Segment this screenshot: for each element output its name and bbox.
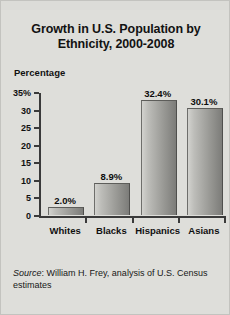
- y-axis-tick-label: 20: [21, 141, 31, 151]
- y-axis-tick: [34, 180, 39, 182]
- bar: [48, 207, 84, 215]
- y-axis-tick-label: 0: [26, 211, 31, 221]
- y-axis-tick-label: 15: [21, 158, 31, 168]
- y-axis-tick-label: 10: [21, 176, 31, 186]
- y-axis-tick: [34, 145, 39, 147]
- y-axis-tick: [34, 215, 39, 217]
- chart-title-line-2: Ethnicity, 2000-2008: [11, 37, 221, 52]
- card-top-strip: [1, 1, 230, 10]
- bar-value-label: 30.1%: [190, 96, 217, 107]
- y-axis-tick-label: 30: [21, 106, 31, 116]
- source-label: Source: [13, 268, 42, 278]
- y-axis-line: [39, 93, 41, 217]
- y-axis-tick: [34, 197, 39, 199]
- x-axis-tick: [132, 218, 134, 223]
- bar: [187, 108, 223, 215]
- bar: [94, 183, 130, 215]
- x-axis-category-label: Asians: [188, 225, 219, 236]
- y-axis-tick: [34, 162, 39, 164]
- y-axis-title: Percentage: [14, 67, 65, 78]
- bar-value-label: 32.4%: [144, 88, 171, 99]
- source-text: : William H. Frey, analysis of U.S. Cens…: [13, 268, 207, 290]
- bar-value-label: 2.0%: [54, 195, 76, 206]
- y-axis-tick-label: 25: [21, 123, 31, 133]
- x-axis-tick: [85, 218, 87, 223]
- x-axis-tick: [178, 218, 180, 223]
- chart-title: Growth in U.S. Population by Ethnicity, …: [11, 22, 221, 52]
- chart-title-line-1: Growth in U.S. Population by: [11, 22, 221, 37]
- chart-card: Growth in U.S. Population by Ethnicity, …: [0, 0, 230, 315]
- source-footnote: Source: William H. Frey, analysis of U.S…: [13, 267, 221, 291]
- x-axis-category-label: Whites: [50, 225, 81, 236]
- y-axis-tick-label: 35%: [13, 88, 31, 98]
- plot-area: 05101520253035% 2.0%8.9%32.4%30.1% White…: [39, 93, 224, 216]
- y-axis-tick: [34, 92, 39, 94]
- x-axis-category-label: Blacks: [96, 225, 127, 236]
- y-axis-tick-label: 5: [26, 193, 31, 203]
- x-axis-category-label: Hispanics: [135, 225, 180, 236]
- y-axis-tick: [34, 110, 39, 112]
- y-axis-tick: [34, 127, 39, 129]
- bar-value-label: 8.9%: [101, 171, 123, 182]
- x-axis-tick: [224, 218, 226, 223]
- bar: [141, 100, 177, 215]
